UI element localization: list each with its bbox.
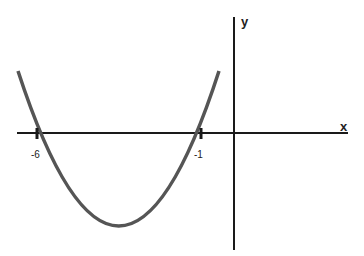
tick-label-left: -6 xyxy=(31,149,40,160)
y-axis-label: y xyxy=(241,14,249,29)
graph: -6 -1 x y xyxy=(0,0,364,256)
parabola-curve xyxy=(18,71,219,226)
tick-label-right: -1 xyxy=(194,149,203,160)
x-axis-label: x xyxy=(340,119,348,134)
